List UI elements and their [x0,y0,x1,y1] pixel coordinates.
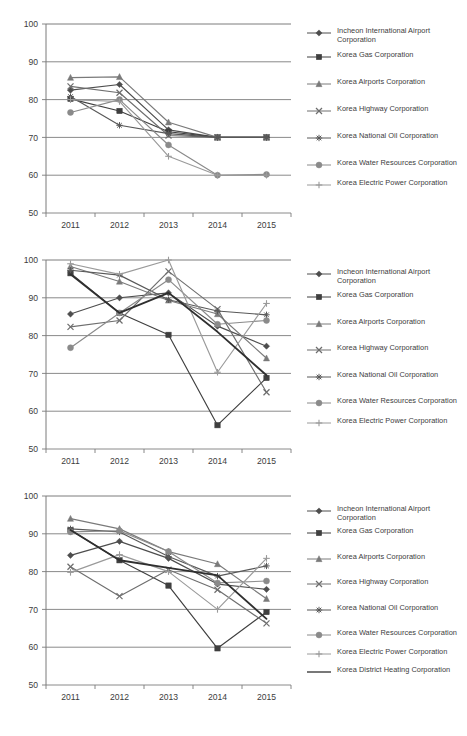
legend-item[interactable]: Korea National Oil Corporation [306,131,464,146]
star-marker [316,607,322,613]
legend-key-svg [306,417,332,429]
square-marker [166,583,171,588]
legend-marker-key [306,553,332,567]
legend-key-svg [306,666,332,678]
legend-item-label: Korea Water Resources Corporation [337,628,457,637]
diamond-marker [67,552,73,558]
legend-key-svg [306,105,332,117]
plus-marker [165,257,172,264]
star-marker [116,122,122,128]
plus-marker [67,260,74,267]
circle-marker [316,632,322,638]
triangle-marker [67,515,73,521]
legend-item[interactable]: Korea Highway Corporation [306,577,464,592]
legend-item[interactable]: Incheon International Airport Corporatio… [306,267,464,286]
legend-item[interactable]: Korea Gas Corporation [306,290,464,305]
plus-marker [316,651,323,658]
diamond-marker [116,538,122,544]
x-tick-label: 2015 [257,692,276,702]
legend-item-label: Korea Electric Power Corporation [337,178,447,187]
circle-marker [215,580,221,586]
legend-marker-key [306,527,332,541]
y-tick-label: 100 [24,255,39,265]
circle-marker [68,345,74,351]
star-marker [263,563,269,569]
diamond-marker [67,311,73,317]
legend-item[interactable]: Korea Gas Corporation [306,526,464,541]
series-line [68,527,269,651]
legend-marker-key [306,27,332,41]
legend-marker-key [306,604,332,618]
y-tick-label: 70 [28,133,38,143]
legend-item[interactable]: Korea Electric Power Corporation [306,416,464,431]
legend-item-label: Incheon International Airport Corporatio… [337,504,464,523]
legend-key-svg [306,268,332,280]
legend-marker-key [306,159,332,173]
square-marker [166,332,171,337]
circle-marker [215,321,221,327]
legend-key-svg [306,604,332,616]
legend-item[interactable]: Incheon International Airport Corporatio… [306,26,464,45]
legend-item-label: Korea National Oil Corporation [337,131,438,140]
legend-item[interactable]: Korea Electric Power Corporation [306,178,464,193]
star-marker [214,308,220,314]
y-tick-label: 60 [28,406,38,416]
diamond-marker [263,586,269,592]
x-tick-label: 2012 [110,220,129,230]
chart-2-svg: 506070809010020112012201320142015 [0,243,300,488]
legend-key-svg [306,629,332,641]
legend-item-label: Korea National Oil Corporation [337,370,438,379]
legend-key-svg [306,318,332,330]
legend-item-label: Korea National Oil Corporation [337,603,438,612]
legend-key-svg [306,159,332,171]
legend-item[interactable]: Korea Water Resources Corporation [306,158,464,173]
star-marker [316,374,322,380]
y-tick-label: 100 [24,491,39,501]
star-marker [263,312,269,318]
chart-3-legend: Incheon International Airport Corporatio… [306,504,464,684]
series-line [68,277,270,351]
square-marker [316,54,321,59]
legend-item[interactable]: Korea Highway Corporation [306,104,464,119]
legend-item[interactable]: Korea Water Resources Corporation [306,396,464,411]
legend-item[interactable]: Korea Electric Power Corporation [306,647,464,662]
legend-item[interactable]: Korea Airports Corporation [306,317,464,332]
plus-marker [214,172,221,179]
diamond-marker [316,30,322,36]
legend-marker-key [306,51,332,65]
diamond-marker [263,343,269,349]
y-tick-label: 80 [28,331,38,341]
legend-item[interactable]: Korea District Heating Corporation [306,665,464,680]
legend-marker-key [306,179,332,193]
legend-key-svg [306,578,332,590]
legend-item[interactable]: Incheon International Airport Corporatio… [306,504,464,523]
x-tick-label: 2014 [208,456,227,466]
legend-item[interactable]: Korea Airports Corporation [306,77,464,92]
legend-item[interactable]: Korea National Oil Corporation [306,603,464,618]
legend-key-svg [306,553,332,565]
legend-item[interactable]: Korea Gas Corporation [306,50,464,65]
y-tick-label: 70 [28,369,38,379]
legend-key-svg [306,648,332,660]
legend-item[interactable]: Korea Highway Corporation [306,343,464,358]
x-cross-marker [215,587,221,593]
series-path [71,567,267,624]
x-tick-label: 2012 [110,456,129,466]
legend-key-svg [306,179,332,191]
legend-item-label: Korea Water Resources Corporation [337,396,457,405]
chart-1-svg: 506070809010020112012201320142015 [0,0,300,243]
plus-marker [316,420,323,427]
legend-item[interactable]: Korea National Oil Corporation [306,370,464,385]
legend-item-label: Korea Gas Corporation [337,290,413,299]
legend-marker-key [306,648,332,662]
legend-item[interactable]: Korea Water Resources Corporation [306,628,464,643]
legend-key-svg [306,27,332,39]
legend-item[interactable]: Korea Airports Corporation [306,552,464,567]
legend-key-svg [306,371,332,383]
star-marker [214,134,220,140]
legend-item-label: Incheon International Airport Corporatio… [337,267,464,286]
legend-key-svg [306,505,332,517]
x-tick-label: 2011 [61,456,80,466]
x-tick-label: 2014 [208,220,227,230]
y-tick-label: 60 [28,170,38,180]
